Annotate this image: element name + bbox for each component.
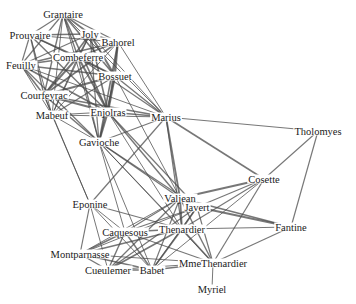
node-label: Courfeyrac bbox=[20, 90, 68, 101]
node-prouvaire[interactable]: Prouvaire bbox=[9, 30, 52, 41]
node-label: Babet bbox=[140, 265, 165, 276]
node-claquesous[interactable]: Caquesous bbox=[101, 227, 149, 238]
node-feuilly[interactable]: Feuilly bbox=[5, 60, 38, 71]
node-label: Mabeuf bbox=[36, 110, 69, 121]
node-label: MmeThenardier bbox=[179, 258, 248, 269]
edge-tholomyes-fantine bbox=[291, 131, 318, 227]
node-label: Javert bbox=[184, 202, 209, 213]
node-label: Enjolras bbox=[91, 107, 126, 118]
edge-cosette-mmethenardier bbox=[213, 179, 264, 263]
node-label: Bahorel bbox=[101, 37, 134, 48]
node-myriel[interactable]: Myriel bbox=[197, 284, 228, 295]
node-gueulemer[interactable]: Cueulemer bbox=[84, 265, 133, 276]
node-label: Gavioche bbox=[79, 137, 120, 148]
node-bossuet[interactable]: Bossuet bbox=[97, 71, 132, 82]
node-label: Joly bbox=[81, 29, 99, 40]
node-enjolras[interactable]: Enjolras bbox=[90, 107, 127, 118]
node-tholomyes[interactable]: Tholomyes bbox=[293, 126, 342, 137]
node-grantaire[interactable]: Grantaire bbox=[42, 9, 84, 20]
node-mmethenardier[interactable]: MmeThenardier bbox=[178, 258, 249, 269]
node-label: Marius bbox=[151, 112, 181, 123]
node-label: Combeferre bbox=[53, 52, 103, 63]
node-label: Bossuet bbox=[98, 71, 131, 82]
edge-mabeuf-eponine bbox=[52, 115, 90, 204]
edge-tholomyes-cosette bbox=[264, 131, 318, 179]
node-label: Thenardier bbox=[159, 224, 206, 235]
network-graph: GrantaireProuvaireJolyBahorelCombeferreF… bbox=[0, 0, 356, 304]
node-label: Prouvaire bbox=[10, 30, 51, 41]
node-label: Caquesous bbox=[102, 227, 148, 238]
node-label: Fantine bbox=[275, 222, 307, 233]
node-bahorel[interactable]: Bahorel bbox=[100, 37, 135, 48]
node-mabeuf[interactable]: Mabeuf bbox=[35, 110, 70, 121]
node-cosette[interactable]: Cosette bbox=[247, 174, 281, 185]
node-javert[interactable]: Javert bbox=[183, 202, 210, 213]
edge-marius-cosette bbox=[166, 117, 264, 179]
node-courfeyrac[interactable]: Courfeyrac bbox=[19, 90, 69, 101]
node-combeferre[interactable]: Combeferre bbox=[52, 52, 104, 63]
edge-eponine-montparnasse bbox=[80, 204, 90, 254]
node-eponine[interactable]: Eponine bbox=[72, 199, 109, 210]
node-label: Grantaire bbox=[43, 9, 83, 20]
node-label: Feuilly bbox=[6, 60, 37, 71]
node-label: Cosette bbox=[248, 174, 280, 185]
node-fantine[interactable]: Fantine bbox=[274, 222, 308, 233]
node-marius[interactable]: Marius bbox=[150, 112, 182, 123]
node-babet[interactable]: Babet bbox=[139, 265, 166, 276]
node-label: Montparnasse bbox=[51, 249, 110, 260]
node-joly[interactable]: Joly bbox=[80, 29, 100, 40]
node-label: Tholomyes bbox=[294, 126, 341, 137]
node-montparnasse[interactable]: Montparnasse bbox=[50, 249, 111, 260]
node-gavroche[interactable]: Gavioche bbox=[78, 137, 121, 148]
node-label: Eponine bbox=[73, 199, 108, 210]
node-label: Myriel bbox=[198, 284, 227, 295]
node-thenardier[interactable]: Thenardier bbox=[158, 224, 207, 235]
node-label: Cueulemer bbox=[85, 265, 132, 276]
